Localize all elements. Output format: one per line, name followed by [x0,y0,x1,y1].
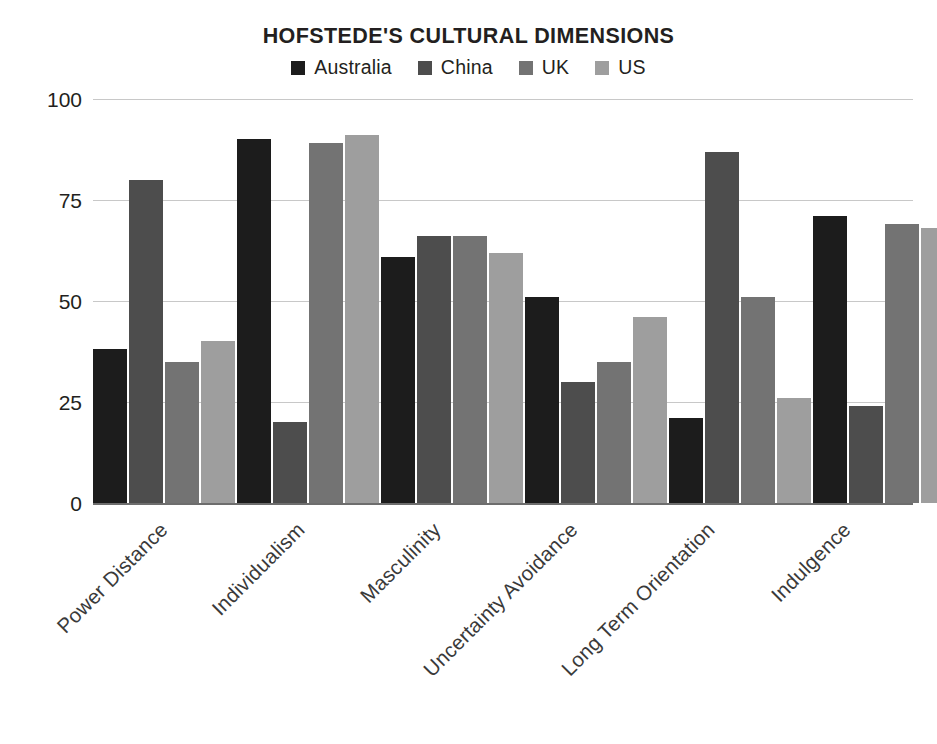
bar[interactable] [885,224,919,503]
bar[interactable] [633,317,667,503]
y-axis-tick-label: 50 [12,291,82,312]
y-axis: 1007550250 [8,99,82,503]
bar[interactable] [273,422,307,503]
legend-item-label: UK [542,56,570,79]
legend-swatch-icon [519,61,533,75]
bar[interactable] [381,257,415,503]
x-axis-tick-label: Indulgence [768,519,855,606]
bar[interactable] [849,406,883,503]
x-axis-labels: Power DistanceIndividualismMasculinityUn… [93,503,913,733]
x-axis-label-cell: Long Term Orientation [640,503,777,733]
bar-groups [93,99,913,503]
x-axis-tick-label: Power Distance [53,519,171,637]
bar[interactable] [309,143,343,503]
bar[interactable] [561,382,595,503]
legend-item-label: Australia [314,56,392,79]
bar[interactable] [813,216,847,503]
x-axis-label-cell: Indulgence [776,503,913,733]
bar[interactable] [777,398,811,503]
bar-group [93,99,237,503]
chart-legend: AustraliaChinaUKUS [0,56,937,79]
y-axis-tick-label: 0 [12,493,82,514]
x-axis-label-cell: Power Distance [93,503,230,733]
x-axis-tick-label: Masculinity [357,519,445,607]
bar[interactable] [525,297,559,503]
legend-swatch-icon [291,61,305,75]
legend-swatch-icon [418,61,432,75]
bar[interactable] [93,349,127,503]
legend-swatch-icon [595,61,609,75]
bar-group [381,99,525,503]
bar[interactable] [237,139,271,503]
bar[interactable] [597,362,631,503]
chart-title: HOFSTEDE'S CULTURAL DIMENSIONS [0,24,937,49]
y-axis-tick-label: 100 [12,89,82,110]
x-axis-label-cell: Individualism [230,503,367,733]
bar-group [525,99,669,503]
bar[interactable] [705,152,739,503]
chart-container: HOFSTEDE'S CULTURAL DIMENSIONS Australia… [0,0,937,744]
legend-item-australia[interactable]: Australia [291,56,392,79]
legend-item-us[interactable]: US [595,56,646,79]
bar[interactable] [129,180,163,503]
bar[interactable] [201,341,235,503]
y-axis-tick-label: 75 [12,190,82,211]
bar[interactable] [417,236,451,503]
bar[interactable] [345,135,379,503]
bar[interactable] [489,253,523,503]
legend-item-uk[interactable]: UK [519,56,570,79]
legend-item-label: US [618,56,646,79]
bar-group [237,99,381,503]
legend-item-china[interactable]: China [418,56,493,79]
bar[interactable] [669,418,703,503]
bar-group [669,99,813,503]
legend-item-label: China [441,56,493,79]
bar[interactable] [165,362,199,503]
y-axis-tick-label: 25 [12,392,82,413]
bar[interactable] [921,228,937,503]
bar-group [813,99,937,503]
bar[interactable] [453,236,487,503]
bar[interactable] [741,297,775,503]
